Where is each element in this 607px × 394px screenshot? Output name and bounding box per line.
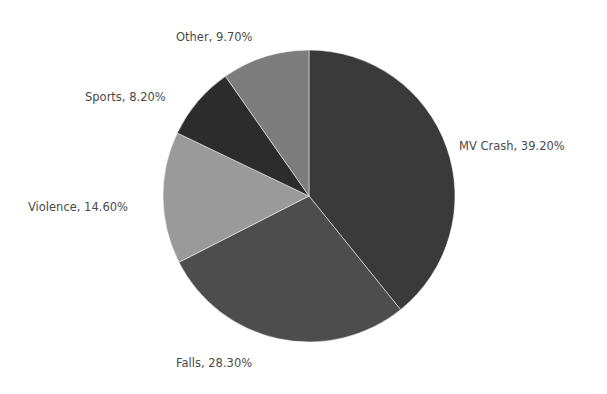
pie-chart: MV Crash, 39.20% Falls, 28.30% Violence,… [0, 0, 607, 394]
label-other: Other, 9.70% [176, 30, 253, 44]
label-mv-crash: MV Crash, 39.20% [459, 139, 565, 153]
faint-caption-line [0, 378, 607, 394]
label-sports: Sports, 8.20% [85, 90, 166, 104]
label-violence: Violence, 14.60% [28, 200, 128, 214]
pie-slices [163, 50, 455, 342]
label-falls: Falls, 28.30% [176, 356, 252, 370]
